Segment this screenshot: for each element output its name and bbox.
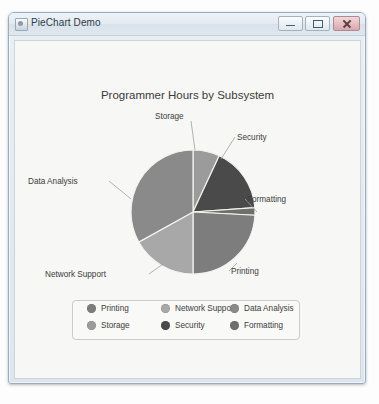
legend-item-storage[interactable]: Storage [87, 321, 130, 330]
legend-label: Security [175, 321, 205, 330]
legend-row: StorageSecurityFormatting [73, 321, 299, 338]
legend-swatch [87, 321, 96, 330]
client-area: Programmer Hours by Subsystem StorageSec… [14, 40, 361, 379]
legend-label: Formatting [244, 321, 283, 330]
legend-item-network-support[interactable]: Network Support [161, 304, 236, 313]
leader-line-data-analysis [109, 181, 131, 199]
leader-line-storage [191, 121, 195, 150]
pie-chart-panel: Programmer Hours by Subsystem StorageSec… [15, 41, 360, 378]
legend-item-data-analysis[interactable]: Data Analysis [230, 304, 294, 313]
minimize-icon [286, 25, 295, 27]
pie-label-storage: Storage [155, 112, 184, 121]
legend-item-printing[interactable]: Printing [87, 304, 129, 313]
leader-line-security [221, 137, 235, 159]
legend-item-security[interactable]: Security [161, 321, 205, 330]
legend-label: Storage [101, 321, 130, 330]
screen: PieChart Demo Programmer Hours by Subsys… [0, 0, 379, 404]
application-window: PieChart Demo Programmer Hours by Subsys… [8, 12, 366, 384]
pie-label-data-analysis: Data Analysis [28, 177, 78, 186]
pie-label-formatting: Formatting [247, 195, 286, 204]
legend-swatch [87, 304, 96, 313]
pie-slice-printing[interactable] [193, 212, 255, 274]
chart-legend: PrintingNetwork SupportData AnalysisStor… [72, 300, 300, 340]
maximize-button[interactable] [305, 16, 330, 31]
app-icon [15, 18, 28, 31]
window-title: PieChart Demo [31, 17, 101, 28]
legend-swatch [230, 304, 239, 313]
maximize-icon [313, 20, 323, 28]
legend-label: Printing [101, 304, 129, 313]
close-button[interactable] [333, 16, 360, 31]
pie-slices [131, 150, 255, 274]
leader-line-network-support [149, 264, 163, 274]
legend-swatch [161, 304, 170, 313]
legend-swatch [161, 321, 170, 330]
title-bar[interactable]: PieChart Demo [9, 13, 365, 36]
legend-label: Data Analysis [244, 304, 294, 313]
legend-label: Network Support [175, 304, 236, 313]
legend-swatch [230, 321, 239, 330]
legend-row: PrintingNetwork SupportData Analysis [73, 304, 299, 321]
pie-label-printing: Printing [231, 267, 259, 276]
minimize-button[interactable] [278, 16, 303, 31]
legend-item-formatting[interactable]: Formatting [230, 321, 283, 330]
pie-label-network-support: Network Support [45, 270, 106, 279]
pie-label-security: Security [237, 133, 267, 142]
